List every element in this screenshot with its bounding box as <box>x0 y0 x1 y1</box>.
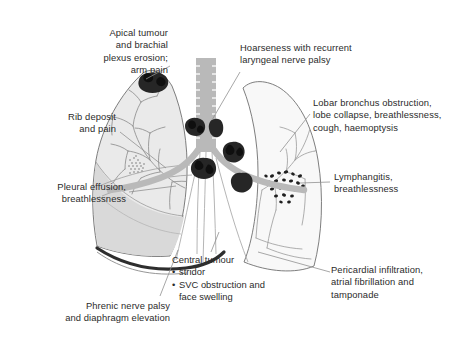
label-central-tumour: Central tumour stridor SVC obstruction a… <box>172 254 300 303</box>
carinal-tumour-mass <box>191 158 216 179</box>
label-hoarseness: Hoarseness with recurrent laryngeal nerv… <box>240 42 400 67</box>
label-pleural-effusion: Pleural effusion, breathlessness <box>8 181 126 206</box>
right-hilar-tumour-mass <box>223 142 245 163</box>
label-lobar-bronchus: Lobar bronchus obstruction, lobe collaps… <box>313 97 452 134</box>
trachea <box>196 58 216 152</box>
central-tumour-list: stridor SVC obstruction and face swellin… <box>172 266 300 303</box>
central-tumour-item: stridor <box>172 266 300 278</box>
label-apical-tumour: Apical tumour and brachial plexus erosio… <box>52 27 168 76</box>
central-tumour-heading: Central tumour <box>172 254 300 266</box>
label-phrenic-nerve: Phrenic nerve palsy and diaphragm elevat… <box>22 300 170 325</box>
lower-right-tumour-mass <box>231 173 253 193</box>
label-lymphangitis: Lymphangitis, breathlessness <box>334 171 444 196</box>
label-rib-deposit: Rib deposit and pain <box>20 111 116 136</box>
paratracheal-node-left <box>185 118 205 136</box>
central-tumour-item: SVC obstruction and face swelling <box>172 279 300 304</box>
lung-cancer-diagram: Apical tumour and brachial plexus erosio… <box>0 0 452 343</box>
label-pericardial: Pericardial infiltration, atrial fibrill… <box>331 264 449 301</box>
